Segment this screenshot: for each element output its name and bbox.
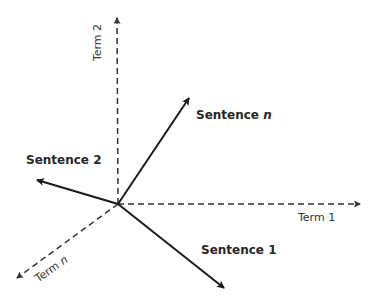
term2-label-text: Term 2 xyxy=(91,24,104,61)
sentencen-label: Sentence n xyxy=(196,108,272,122)
sentence1-label-text: Sentence 1 xyxy=(201,243,277,257)
sentencen-vector xyxy=(118,98,189,204)
term1-label-text: Term 1 xyxy=(298,211,335,224)
termn-axis xyxy=(17,204,118,278)
sentencen-label-var: n xyxy=(263,108,272,122)
sentencen-label-text: Sentence xyxy=(196,108,263,122)
sentence2-label-text: Sentence 2 xyxy=(26,153,102,167)
term1-label: Term 1 xyxy=(298,211,335,224)
sentence2-label: Sentence 2 xyxy=(26,153,102,167)
term2-axis xyxy=(117,18,118,204)
sentence1-label: Sentence 1 xyxy=(201,243,277,257)
sentence2-vector xyxy=(37,180,118,204)
term2-label: Term 2 xyxy=(91,24,104,61)
